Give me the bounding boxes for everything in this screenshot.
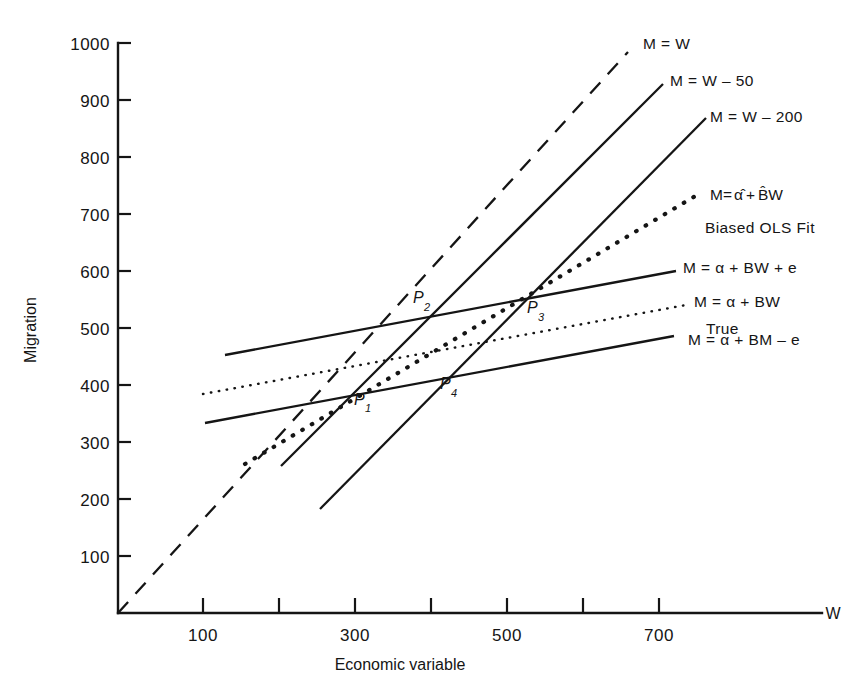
point-p1-label: P [354,391,365,408]
series-labels: M = W M = W – 50 M = W – 200 M=α̂+B̂W Bi… [643,35,815,348]
label-biased-ols-equation: M=α̂+B̂W [710,186,783,203]
point-p2: P 2 [413,289,430,313]
y-tick-labels: 1000 900 800 700 600 500 400 300 200 100 [70,35,110,567]
y-tick-label: 200 [80,491,110,510]
x-axis-title: Economic variable [335,656,466,673]
label-m-alpha-bw-plus-e: M = α + BW + e [683,259,797,276]
figure-container: 1000 900 800 700 600 500 400 300 200 100… [0,0,868,678]
point-p4: P 4 [440,375,457,399]
x-tick-label: 700 [644,626,674,645]
y-tick-label: 400 [80,377,110,396]
point-p3: P 3 [527,299,545,323]
label-m-alpha-bw-true: M = α + BW [694,293,780,310]
y-ticks [118,43,131,556]
chart-svg: 1000 900 800 700 600 500 400 300 200 100… [0,0,868,678]
label-m-eq-w: M = W [643,35,690,52]
y-tick-label: 1000 [70,35,110,54]
y-tick-label: 300 [80,434,110,453]
y-tick-label: 100 [80,548,110,567]
y-axis-title: Migration [22,297,39,363]
point-p2-subscript: 2 [423,301,430,313]
label-biased-ols-group: M=α̂+B̂W Biased OLS Fit [705,186,815,236]
x-tick-label: 300 [340,626,370,645]
y-tick-label: 500 [80,320,110,339]
label-m-eq-w-minus-200: M = W – 200 [710,108,803,125]
point-p3-subscript: 3 [538,311,545,323]
label-biased-ols-caption: Biased OLS Fit [705,219,815,236]
point-p1-subscript: 1 [365,402,371,414]
data-lines [118,52,706,613]
intersection-point-labels: P 1 P 2 P 3 P 4 [354,289,545,414]
label-m-eq-w-minus-50: M = W – 50 [670,72,754,89]
x-axis-symbol: W [825,605,841,622]
y-tick-label: 900 [80,92,110,111]
point-p4-subscript: 4 [451,387,457,399]
point-p3-label: P [527,299,538,316]
x-tick-label: 100 [188,626,218,645]
point-p4-label: P [440,375,451,392]
label-m-alpha-bm-minus-e: M = α + BM – e [688,331,800,348]
x-tick-labels: 100 300 500 700 [188,626,674,645]
line-m-eq-w-minus-200 [320,118,706,509]
y-tick-label: 600 [80,263,110,282]
point-p1: P 1 [354,391,371,414]
line-m-eq-w-minus-50 [281,84,663,466]
line-m-alpha-bw-plus-e [225,271,676,355]
y-tick-label: 700 [80,206,110,225]
point-p2-label: P [413,289,424,306]
line-biased-ols-fit [245,195,697,464]
x-ticks [203,598,659,613]
y-tick-label: 800 [80,149,110,168]
x-tick-label: 500 [492,626,522,645]
line-m-eq-w [118,52,628,613]
